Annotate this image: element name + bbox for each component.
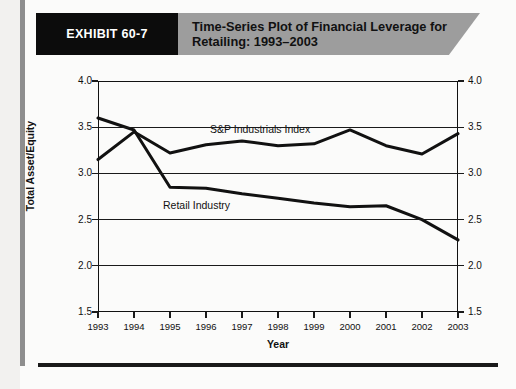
x-axis-tick-mark — [349, 312, 350, 318]
x-axis-tick-mark — [457, 312, 458, 318]
x-axis-tick-mark — [385, 312, 386, 318]
y-axis-tick-mark — [92, 173, 98, 174]
y-axis-tick-label-right: 2.5 — [468, 214, 498, 225]
x-axis-tick-mark — [133, 312, 134, 318]
y-axis-tick-label-right: 3.5 — [468, 121, 498, 132]
x-axis-tick-label: 1994 — [117, 321, 151, 332]
plot-frame — [98, 81, 458, 312]
x-axis-tick-mark — [169, 312, 170, 318]
y-axis-tick-mark — [458, 219, 464, 220]
y-axis-tick-label-right: 1.5 — [468, 306, 498, 317]
y-axis-tick-label-left: 4.0 — [62, 75, 92, 86]
x-axis-tick-mark — [277, 312, 278, 318]
x-axis-tick-label: 2002 — [405, 321, 439, 332]
y-axis-tick-label-left: 3.0 — [62, 167, 92, 178]
x-axis-tick-mark — [313, 312, 314, 318]
x-axis-tick-label: 1997 — [225, 321, 259, 332]
y-axis-tick-mark — [458, 311, 464, 312]
y-axis-tick-label-left: 2.0 — [62, 260, 92, 271]
gridline — [98, 127, 458, 128]
x-axis-tick-mark — [205, 312, 206, 318]
y-axis-title: Total Asset/Equity — [24, 106, 36, 226]
page-bottom-rule — [38, 363, 498, 367]
y-axis-tick-mark — [458, 173, 464, 174]
y-axis-tick-mark — [92, 80, 98, 81]
y-axis-tick-label-left: 1.5 — [62, 306, 92, 317]
chart-container: Total Asset/Equity Year S&P Industrials … — [0, 0, 516, 389]
x-axis-tick-label: 1993 — [81, 321, 115, 332]
x-axis-title: Year — [98, 338, 458, 350]
y-axis-tick-mark — [458, 127, 464, 128]
x-axis-tick-mark — [421, 312, 422, 318]
x-axis-tick-label: 1998 — [261, 321, 295, 332]
x-axis-tick-label: 2000 — [333, 321, 367, 332]
x-axis-tick-mark — [241, 312, 242, 318]
x-axis-tick-mark — [97, 312, 98, 318]
x-axis-tick-label: 1999 — [297, 321, 331, 332]
gridline — [98, 173, 458, 174]
y-axis-tick-label-left: 2.5 — [62, 214, 92, 225]
y-axis-tick-label-right: 2.0 — [468, 260, 498, 271]
y-axis-tick-label-right: 3.0 — [468, 167, 498, 178]
gridline — [98, 219, 458, 220]
y-axis-tick-label-left: 3.5 — [62, 121, 92, 132]
y-axis-tick-mark — [92, 265, 98, 266]
y-axis-tick-label-right: 4.0 — [468, 75, 498, 86]
x-axis-tick-label: 2003 — [441, 321, 475, 332]
y-axis-tick-mark — [92, 127, 98, 128]
gridline — [98, 265, 458, 266]
x-axis-tick-label: 1996 — [189, 321, 223, 332]
y-axis-tick-mark — [458, 80, 464, 81]
x-axis-tick-label: 2001 — [369, 321, 403, 332]
x-axis-tick-label: 1995 — [153, 321, 187, 332]
series-label-sp-industrials: S&P Industrials Index — [210, 123, 310, 135]
series-label-retail-industry: Retail Industry — [163, 199, 230, 211]
y-axis-tick-mark — [92, 219, 98, 220]
y-axis-tick-mark — [458, 265, 464, 266]
